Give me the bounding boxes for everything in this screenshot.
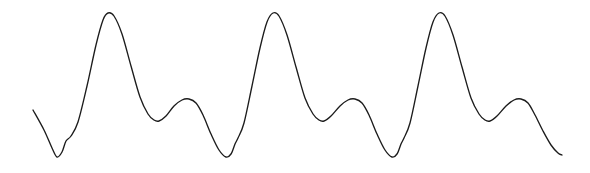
waveform-plot-canvas	[0, 0, 590, 173]
waveform-figure	[0, 0, 590, 173]
plot-background	[0, 0, 590, 173]
